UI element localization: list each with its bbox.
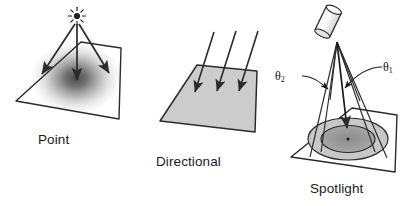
caption-spotlight: Spotlight [310, 181, 363, 196]
theta2-leader [302, 76, 328, 89]
lamp-cylinder-icon [313, 3, 342, 40]
theta2-subscript: 2 [281, 75, 285, 84]
theta1-label: θ1 [383, 60, 393, 75]
point-light-plane [16, 42, 121, 119]
panel-directional-light [160, 31, 258, 132]
caption-directional: Directional [156, 154, 221, 169]
theta2-symbol: θ [275, 69, 281, 83]
directional-light-plane [160, 65, 257, 132]
theta1-symbol: θ [383, 60, 389, 74]
diagram-canvas [0, 0, 409, 206]
panel-point-light [16, 7, 121, 119]
panel-spotlight [291, 3, 397, 172]
theta2-label: θ2 [275, 69, 285, 84]
spotlight-pools [308, 118, 388, 160]
theta1-subscript: 1 [389, 66, 393, 75]
spotlight-center-dot [347, 138, 350, 141]
caption-point: Point [38, 132, 69, 147]
star-burst-icon [68, 7, 86, 25]
point-light-falloff [32, 43, 120, 113]
light-types-figure: θ2 θ1 Point Directional Spotlight [0, 0, 409, 206]
